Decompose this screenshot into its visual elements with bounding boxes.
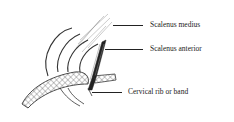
leader-line-scalenus-anterior — [105, 49, 143, 50]
first-rib-stub — [93, 74, 116, 83]
plexus-arcs — [46, 28, 98, 76]
anatomy-diagram: Scalenus medius Scalenus anterior Cervic… — [0, 0, 234, 122]
scalene-cervical-rib-illustration — [0, 0, 234, 122]
leader-line-scalenus-medius — [113, 25, 143, 26]
label-cervical-rib: Cervical rib or band — [128, 88, 188, 96]
label-scalenus-medius: Scalenus medius — [150, 21, 200, 29]
leader-line-cervical-rib — [92, 92, 122, 93]
label-scalenus-anterior: Scalenus anterior — [150, 45, 202, 53]
cervical-rib-shape — [22, 72, 88, 108]
